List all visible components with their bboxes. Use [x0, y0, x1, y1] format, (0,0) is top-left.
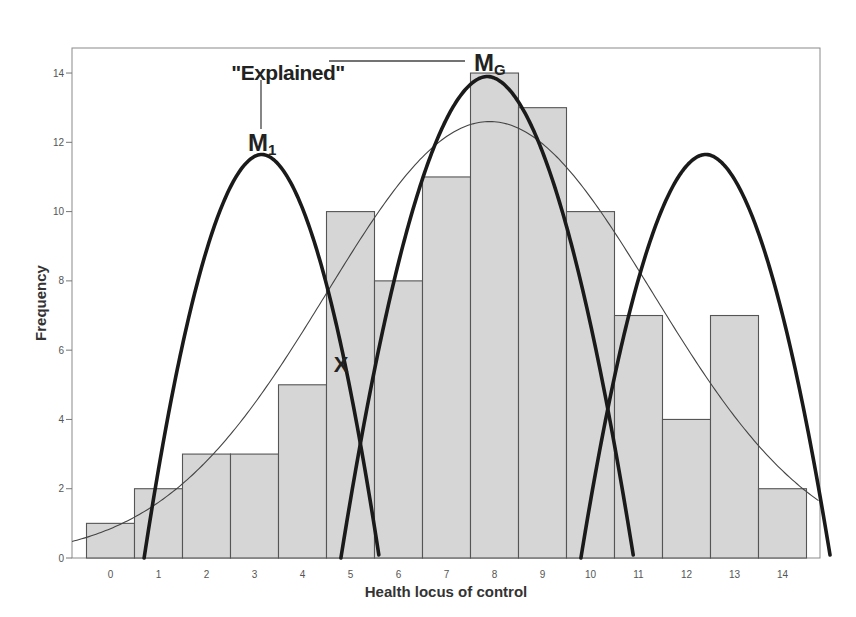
x-tick-label: 9	[540, 569, 546, 580]
x-tick-label: 2	[204, 569, 210, 580]
x-axis: 01234567891011121314	[108, 569, 789, 580]
histogram-bar	[231, 454, 279, 558]
histogram-bar	[375, 281, 423, 558]
histogram-bar	[759, 489, 807, 558]
explained-label: "Explained"	[231, 61, 345, 84]
histogram-bar	[663, 419, 711, 558]
x-tick-label: 6	[396, 569, 402, 580]
y-tick-label: 2	[58, 483, 64, 494]
y-tick-label: 4	[58, 414, 64, 425]
x-axis-title: Health locus of control	[365, 583, 528, 600]
x-tick-label: 14	[777, 569, 789, 580]
x-tick-label: 1	[156, 569, 162, 580]
histogram-bar	[183, 454, 231, 558]
x-tick-label: 10	[585, 569, 597, 580]
y-tick-label: 14	[53, 68, 65, 79]
y-axis-title: Frequency	[32, 264, 49, 341]
x-tick-label: 11	[633, 569, 644, 580]
y-tick-label: 6	[58, 345, 64, 356]
x-intersection-mark: X	[334, 352, 349, 377]
histogram-bar	[471, 73, 519, 558]
y-tick-label: 12	[53, 137, 65, 148]
y-tick-label: 8	[58, 275, 64, 286]
x-tick-label: 13	[729, 569, 741, 580]
x-tick-label: 3	[252, 569, 258, 580]
x-tick-label: 0	[108, 569, 114, 580]
histogram-bar	[423, 177, 471, 558]
y-tick-label: 10	[53, 206, 65, 217]
x-tick-label: 7	[444, 569, 450, 580]
x-tick-label: 5	[348, 569, 354, 580]
y-tick-label: 0	[58, 553, 64, 564]
y-axis: 02468101214	[53, 68, 72, 564]
histogram-bar	[519, 108, 567, 558]
x-tick-label: 8	[492, 569, 498, 580]
histogram-bar	[279, 385, 327, 558]
x-tick-label: 12	[681, 569, 693, 580]
x-tick-label: 4	[300, 569, 306, 580]
histogram-bar	[135, 489, 183, 558]
histogram-chart: 02468101214 01234567891011121314 "Explai…	[0, 0, 856, 617]
